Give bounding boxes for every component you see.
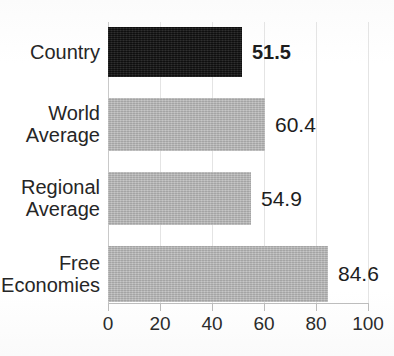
bar-row-free-economies[interactable]: 84.6 — [108, 246, 368, 302]
category-label-free-economies-line2: Economies — [0, 274, 100, 296]
x-tick-label-80: 80 — [305, 313, 326, 335]
x-axis-line — [108, 303, 369, 304]
category-label-regional-average-line2: Average — [0, 198, 100, 220]
x-tick-label-60: 60 — [253, 313, 274, 335]
category-label-world-average-line2: Average — [0, 124, 100, 146]
bar-regional-average[interactable] — [108, 172, 251, 225]
tick-mark-40 — [212, 304, 213, 311]
tick-mark-0 — [108, 304, 109, 311]
bar-row-country[interactable]: 51.5 — [108, 27, 368, 77]
category-label-world-average-line1: World — [48, 102, 100, 124]
tick-mark-80 — [316, 304, 317, 311]
bar-chart-figure: 51.5 60.4 54.9 84.6 Country World Averag… — [0, 0, 394, 356]
tick-mark-100 — [368, 304, 369, 311]
category-label-free-economies: Free Economies — [0, 252, 100, 296]
bar-world-average[interactable] — [108, 98, 265, 151]
category-label-free-economies-line1: Free — [59, 252, 100, 274]
x-tick-label-20: 20 — [149, 313, 170, 335]
value-label-regional-average: 54.9 — [261, 187, 302, 211]
value-label-world-average: 60.4 — [275, 113, 316, 137]
tick-mark-60 — [264, 304, 265, 311]
category-label-regional-average-line1: Regional — [21, 176, 100, 198]
bar-row-world-average[interactable]: 60.4 — [108, 98, 368, 151]
x-tick-label-40: 40 — [201, 313, 222, 335]
cropped-chart-title — [0, 0, 394, 7]
category-label-world-average: World Average — [0, 102, 100, 146]
value-label-country: 51.5 — [252, 41, 291, 64]
category-label-country: Country — [0, 41, 100, 63]
bar-row-regional-average[interactable]: 54.9 — [108, 172, 368, 225]
x-tick-label-100: 100 — [352, 313, 384, 335]
bar-country[interactable] — [108, 27, 242, 77]
tick-mark-20 — [160, 304, 161, 311]
x-tick-label-0: 0 — [103, 313, 114, 335]
category-label-regional-average: Regional Average — [0, 176, 100, 220]
category-label-country-line1: Country — [30, 41, 100, 63]
plot-area: 51.5 60.4 54.9 84.6 — [108, 22, 368, 304]
value-label-free-economies: 84.6 — [338, 262, 379, 286]
bar-free-economies[interactable] — [108, 246, 328, 302]
